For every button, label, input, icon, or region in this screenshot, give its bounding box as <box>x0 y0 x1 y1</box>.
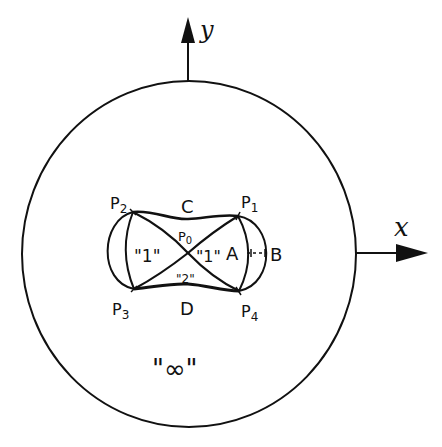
y-axis-arrow-icon <box>181 17 195 43</box>
x-axis-arrow-icon <box>396 244 428 262</box>
topology-diagram: y x P2 <box>0 0 442 447</box>
label-p1: P1 <box>241 193 258 215</box>
label-p0: P0 <box>178 229 192 246</box>
region-outer-infinity: "∞" <box>152 354 198 384</box>
label-p3: P3 <box>112 300 129 322</box>
region-labels: "1" "1" "2" "∞" <box>134 246 221 384</box>
label-a: A <box>226 243 239 264</box>
label-p4: P4 <box>241 302 258 324</box>
region-right-1: "1" <box>196 247 221 266</box>
x-axis: x <box>356 212 428 262</box>
left-inner-chord <box>126 212 134 289</box>
curve-a <box>238 216 248 291</box>
label-c: C <box>181 196 194 217</box>
label-d: D <box>180 298 194 319</box>
region-left-1: "1" <box>134 246 160 266</box>
y-axis-label: y <box>199 16 214 44</box>
x-axis-label: x <box>394 212 409 242</box>
label-p2: P2 <box>110 194 127 216</box>
region-bottom-2: "2" <box>176 272 195 286</box>
label-b: B <box>270 244 282 265</box>
y-axis: y <box>181 16 214 81</box>
